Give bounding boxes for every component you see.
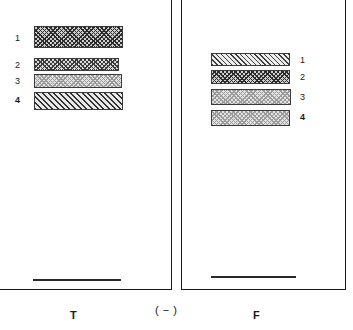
gel-electrophoresis-figure: 1 2 3 4 1 2 3 4 T ( − ) F	[0, 0, 353, 330]
panel-divider-right-line	[181, 0, 182, 290]
panel-f-right-border	[345, 0, 346, 290]
origin-line-t	[33, 279, 121, 281]
panel-caption-f: F	[253, 310, 261, 321]
band-f-1	[211, 53, 290, 66]
origin-line-f	[211, 276, 296, 278]
band-f-4	[211, 110, 290, 126]
band-label-t-2: 2	[15, 61, 20, 70]
band-label-t-1: 1	[15, 34, 20, 43]
band-t-4	[34, 92, 123, 110]
band-f-2	[211, 70, 290, 84]
band-label-f-2: 2	[300, 73, 305, 82]
band-t-1	[34, 26, 123, 48]
band-label-t-3: 3	[15, 77, 20, 86]
panel-caption-t: T	[70, 310, 78, 321]
panel-f	[181, 0, 346, 290]
band-label-f-1: 1	[300, 56, 305, 65]
panel-t-baseline	[0, 289, 172, 290]
polarity-caption: ( − )	[155, 305, 177, 316]
panel-divider-left-line	[171, 0, 172, 290]
band-f-3	[211, 89, 291, 105]
band-label-t-4: 4	[15, 96, 20, 105]
panel-f-baseline	[181, 289, 346, 290]
band-t-3	[34, 74, 122, 88]
band-t-2	[34, 58, 119, 71]
band-label-f-3: 3	[300, 93, 305, 102]
band-label-f-4: 4	[300, 113, 305, 122]
